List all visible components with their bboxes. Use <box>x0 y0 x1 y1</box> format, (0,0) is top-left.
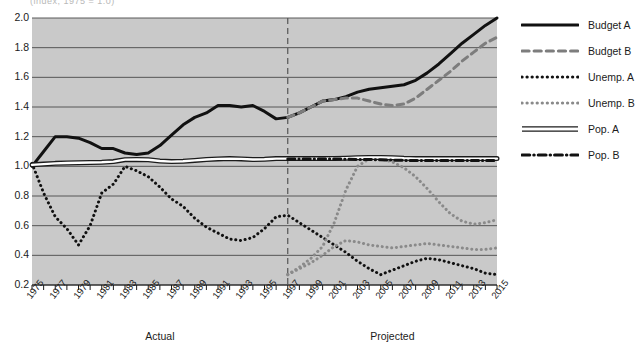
legend-swatch-dashed <box>521 40 579 62</box>
y-axis-tick-labels: 2.01.81.61.41.21.00.80.60.40.2 <box>0 0 29 300</box>
legend-item[interactable]: Pop. B <box>515 144 641 170</box>
legend-item[interactable]: Unemp. A <box>515 66 641 92</box>
legend-swatch-dotted <box>521 66 579 88</box>
legend-label: Unemp. A <box>588 71 634 83</box>
legend-swatch-dotted <box>521 92 579 114</box>
y-tick-label: 0.6 <box>3 220 29 230</box>
legend-item[interactable]: Pop. A <box>515 118 641 144</box>
legend-label: Budget A <box>588 19 631 31</box>
legend-swatch-solid <box>521 14 579 36</box>
y-tick-label: 0.4 <box>3 249 29 259</box>
y-tick-label: 0.8 <box>3 190 29 200</box>
legend-label: Unemp. B <box>588 97 635 109</box>
y-tick-label: 2.0 <box>3 12 29 22</box>
chart-root: (index, 1975 = 1.0) 2.01.81.61.41.21.00.… <box>0 0 641 350</box>
legend-item[interactable]: Budget B <box>515 40 641 66</box>
legend-swatch-dashdot <box>521 144 579 166</box>
legend-item[interactable]: Unemp. B <box>515 92 641 118</box>
y-tick-label: 0.2 <box>3 279 29 289</box>
legend-swatch-outlined <box>521 118 579 140</box>
legend-label: Pop. A <box>588 123 619 135</box>
legend-item[interactable]: Budget A <box>515 14 641 40</box>
region-label: Projected <box>357 330 427 342</box>
legend-label: Pop. B <box>588 149 620 161</box>
y-tick-label: 1.4 <box>3 101 29 111</box>
y-tick-label: 1.0 <box>3 160 29 170</box>
region-label: Actual <box>125 330 195 342</box>
chart-legend: Budget ABudget BUnemp. AUnemp. BPop. APo… <box>515 14 641 170</box>
y-tick-label: 1.8 <box>3 42 29 52</box>
y-tick-label: 1.2 <box>3 131 29 141</box>
y-tick-label: 1.6 <box>3 71 29 81</box>
legend-label: Budget B <box>588 45 631 57</box>
